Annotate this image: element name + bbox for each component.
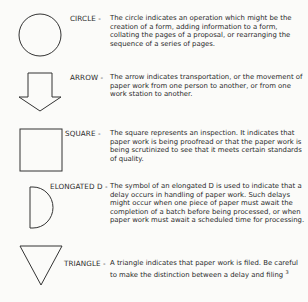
square-icon	[20, 129, 62, 171]
elongated-d-icon	[30, 187, 53, 228]
triangle-icon	[20, 246, 62, 285]
circle-icon	[19, 14, 61, 56]
description-elongated-d: The symbol of an elongated D is used to …	[110, 182, 306, 225]
description-arrow: The arrow indicates transportation, or t…	[110, 73, 306, 99]
description-triangle-text: A triangle indicates that paper work is …	[110, 259, 298, 279]
term-arrow: ARROW -	[70, 73, 103, 82]
description-square: The square represents an inspection. It …	[110, 129, 306, 163]
term-triangle: TRIANGLE -	[64, 259, 106, 268]
term-elongated-d: ELONGATED D -	[50, 182, 108, 191]
description-circle: The circle indicates an operation which …	[110, 14, 306, 48]
arrow-down-icon	[19, 73, 61, 111]
description-triangle: A triangle indicates that paper work is …	[110, 259, 306, 279]
footnote-marker: 3	[285, 269, 288, 275]
term-circle: CIRCLE -	[70, 14, 101, 23]
term-square: SQUARE -	[65, 129, 101, 138]
